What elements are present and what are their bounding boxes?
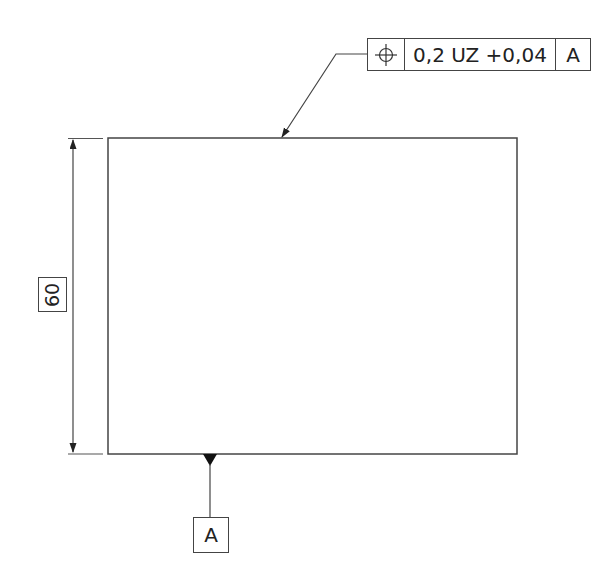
datum-label: A bbox=[204, 523, 218, 547]
drawing-canvas bbox=[0, 0, 609, 576]
position-icon bbox=[374, 43, 398, 67]
datum-reference: A bbox=[566, 43, 580, 67]
tolerance-value: 0,2 UZ +0,04 bbox=[413, 43, 547, 67]
part-outline bbox=[108, 138, 517, 454]
datum-feature-box: A bbox=[193, 517, 229, 553]
position-symbol-cell bbox=[368, 39, 404, 70]
datum-reference-cell: A bbox=[555, 39, 590, 70]
dimension-value-box: 60 bbox=[38, 277, 67, 312]
tolerance-cell: 0,2 UZ +0,04 bbox=[404, 39, 555, 70]
fcf-leader bbox=[282, 54, 367, 137]
feature-control-frame: 0,2 UZ +0,04 A bbox=[367, 38, 591, 71]
dimension-value: 60 bbox=[42, 282, 64, 306]
